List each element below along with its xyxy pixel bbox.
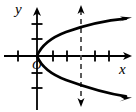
origin-label: O: [32, 58, 41, 71]
graph-figure: y x O: [0, 0, 136, 112]
x-axis-label: x: [119, 62, 126, 77]
parabola-lower-arrowhead: [120, 96, 133, 101]
vertical-line-down-arrowhead: [78, 98, 85, 107]
y-axis-label: y: [15, 2, 22, 17]
